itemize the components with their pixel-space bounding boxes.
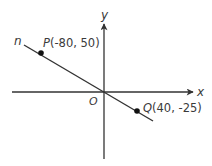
point-q-label: Q(40, -25) bbox=[143, 101, 202, 115]
origin-label: O bbox=[89, 95, 98, 108]
point-q-name: Q bbox=[143, 101, 152, 115]
point-q-coords: (40, -25) bbox=[152, 101, 202, 115]
x-axis-label: x bbox=[196, 85, 205, 99]
line-n-label: n bbox=[14, 34, 22, 48]
point-q-marker bbox=[134, 108, 140, 114]
point-p-marker bbox=[38, 50, 44, 56]
point-p-coords: (-80, 50) bbox=[50, 36, 100, 50]
y-axis-label: y bbox=[100, 8, 109, 22]
point-p-name: P bbox=[43, 36, 50, 50]
coordinate-plane-diagram: x y O n P(-80, 50) Q(40, -25) bbox=[0, 0, 212, 166]
point-p-label: P(-80, 50) bbox=[43, 36, 100, 50]
line-n bbox=[24, 45, 153, 121]
